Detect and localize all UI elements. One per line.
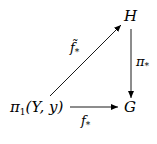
arrow-lift: [50, 25, 121, 96]
node-fundamental-group: π1(Y, y): [10, 100, 63, 117]
pi-symbol: π: [10, 98, 20, 116]
pi: π: [136, 54, 145, 69]
node-g: G: [124, 100, 136, 115]
star: *: [86, 120, 91, 130]
arguments: (Y, y): [26, 98, 64, 116]
label-map: f*: [81, 114, 90, 130]
label-lift: f̃*: [70, 41, 79, 57]
star: *: [145, 61, 150, 71]
node-h: H: [124, 9, 137, 24]
label-projection: π*: [136, 55, 149, 71]
star: *: [75, 47, 80, 57]
